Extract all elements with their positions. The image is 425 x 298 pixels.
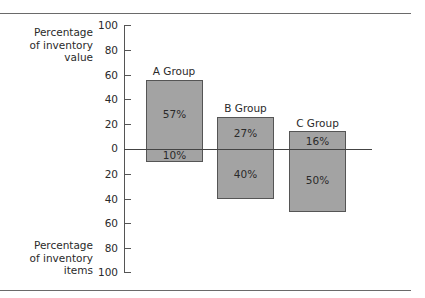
y-tick-label: 20: [88, 118, 118, 130]
y-tick-label: 60: [88, 217, 118, 229]
y-tick-label: 20: [88, 168, 118, 180]
y-tick-label: 100: [88, 266, 118, 278]
y-tick: [124, 199, 131, 200]
bar-b-items-pct: 40%: [217, 168, 274, 180]
y-tick-label: 40: [88, 93, 118, 105]
bar-b-value-pct: 27%: [217, 127, 274, 139]
bar-a-value-pct: 57%: [146, 108, 203, 120]
axis-title-line: Percentage: [30, 26, 93, 39]
top-rule: [0, 13, 411, 14]
axis-title-line: Percentage: [30, 239, 93, 252]
axis-title-line: value: [30, 51, 93, 64]
group-label-a: A Group: [146, 65, 202, 77]
axis-title-line: items: [30, 264, 93, 277]
y-tick: [124, 50, 131, 51]
y-tick-label: 80: [88, 44, 118, 56]
y-tick-label: 60: [88, 69, 118, 81]
y-tick: [124, 25, 131, 26]
bar-c-items-pct: 50%: [289, 174, 346, 186]
y-tick-label: 100: [88, 19, 118, 31]
y-axis-title-items: Percentage of inventory items: [30, 239, 93, 277]
bar-a-items-pct: 10%: [146, 149, 203, 161]
y-tick-label: 0: [88, 142, 118, 154]
y-tick: [124, 124, 131, 125]
group-label-b: B Group: [217, 102, 274, 114]
bar-c-value-pct: 16%: [289, 135, 346, 147]
y-tick: [124, 248, 131, 249]
y-tick: [124, 99, 131, 100]
y-tick: [124, 75, 131, 76]
y-tick: [124, 174, 131, 175]
y-tick: [124, 223, 131, 224]
y-axis-title-value: Percentage of inventory value: [30, 26, 93, 64]
axis-title-line: of inventory: [30, 39, 93, 52]
group-label-c: C Group: [289, 117, 346, 129]
bottom-rule: [0, 290, 411, 291]
axis-title-line: of inventory: [30, 252, 93, 265]
y-tick-label: 40: [88, 193, 118, 205]
y-tick: [124, 272, 131, 273]
y-tick-label: 80: [88, 242, 118, 254]
